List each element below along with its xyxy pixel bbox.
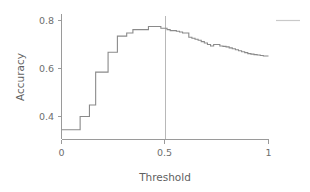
x-tick-label-0.5: 0.5: [157, 147, 172, 158]
y-tick-label-0.8: 0.8: [39, 15, 54, 26]
x-tick-label-1: 1: [265, 147, 271, 158]
y-tick-label-0.4: 0.4: [39, 111, 54, 122]
y-axis-title: Accuracy: [14, 53, 26, 101]
accuracy-vs-threshold-chart: 0.8 0.6 0.4 0 0.5 1 Threshold Accuracy: [0, 0, 310, 192]
x-tick-label-0: 0: [58, 147, 64, 158]
y-tick-label-0.6: 0.6: [39, 63, 54, 74]
chart-figure: 0.8 0.6 0.4 0 0.5 1 Threshold Accuracy: [0, 0, 310, 192]
x-axis-title: Threshold: [138, 171, 191, 183]
chart-background: [0, 0, 310, 192]
